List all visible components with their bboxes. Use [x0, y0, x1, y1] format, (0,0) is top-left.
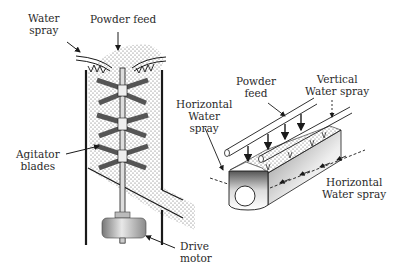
vertical-granulator — [66, 32, 195, 248]
motor-coupling — [115, 212, 130, 218]
powder-feed-label-arrow — [268, 103, 285, 116]
label-horizontal-water-spray-left: Horizontal Water spray — [176, 98, 232, 134]
water-spray-arrow — [67, 42, 80, 52]
trough-shaft-opening — [235, 186, 255, 206]
label-powder-feed-left: Powder feed — [90, 13, 156, 25]
label-drive-motor: Drive motor — [180, 240, 212, 264]
diagram-drawing — [0, 0, 401, 277]
drive-motor — [102, 218, 146, 238]
label-powder-feed-right: Powder feed — [236, 75, 276, 99]
label-horizontal-water-spray-right: Horizontal Water spray — [322, 176, 386, 200]
label-water-spray: Water spray — [28, 12, 60, 36]
powder-fill — [88, 44, 195, 230]
label-vertical-water-spray: Vertical Water spray — [305, 73, 369, 97]
diagram-canvas: Water spray Powder feed Agitator blades … — [0, 0, 401, 277]
drive-motor-arrow — [146, 236, 175, 248]
horizontal-spray-left-arrow — [205, 128, 223, 170]
horizontal-spray-line-left — [210, 178, 228, 184]
label-agitator-blades: Agitator blades — [16, 148, 60, 172]
